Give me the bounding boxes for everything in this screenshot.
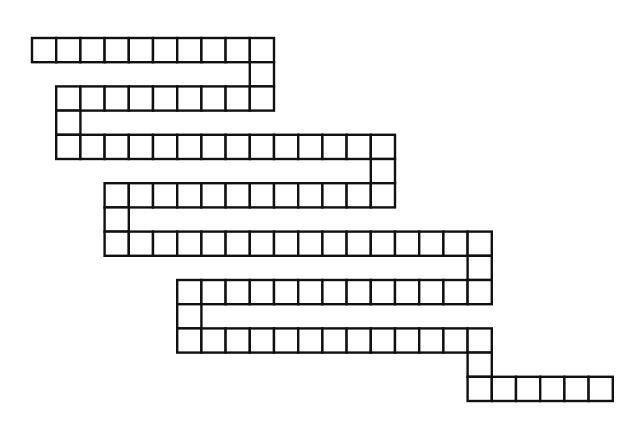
grid-cell[interactable] [153, 183, 177, 207]
grid-cell[interactable] [322, 232, 346, 256]
grid-cell[interactable] [56, 38, 80, 62]
grid-cell[interactable] [516, 377, 540, 401]
grid-cell[interactable] [250, 280, 274, 304]
grid-cell[interactable] [153, 86, 177, 110]
grid-cell[interactable] [226, 86, 250, 110]
grid-cell[interactable] [250, 232, 274, 256]
grid-cell[interactable] [371, 183, 395, 207]
grid-cell[interactable] [226, 280, 250, 304]
grid-cell[interactable] [371, 135, 395, 159]
grid-cell[interactable] [177, 38, 201, 62]
grid-cell[interactable] [298, 183, 322, 207]
grid-cell[interactable] [371, 328, 395, 352]
grid-cell[interactable] [371, 280, 395, 304]
grid-cell[interactable] [153, 232, 177, 256]
grid-cell[interactable] [347, 328, 371, 352]
grid-cell[interactable] [468, 232, 492, 256]
grid-cell[interactable] [274, 328, 298, 352]
grid-cell[interactable] [250, 38, 274, 62]
grid-cell[interactable] [419, 280, 443, 304]
grid-cell[interactable] [177, 280, 201, 304]
grid-cell[interactable] [443, 232, 467, 256]
grid-cell[interactable] [129, 38, 153, 62]
grid-cell[interactable] [32, 38, 56, 62]
grid-cell[interactable] [105, 207, 129, 231]
grid-cell[interactable] [274, 135, 298, 159]
grid-cell[interactable] [129, 135, 153, 159]
grid-cell[interactable] [153, 38, 177, 62]
grid-cell[interactable] [443, 328, 467, 352]
grid-cell[interactable] [80, 38, 104, 62]
grid-cell[interactable] [371, 159, 395, 183]
grid-cell[interactable] [322, 328, 346, 352]
grid-cell[interactable] [347, 280, 371, 304]
grid-cell[interactable] [201, 183, 225, 207]
grid-cell[interactable] [226, 232, 250, 256]
grid-cell[interactable] [347, 183, 371, 207]
grid-cell[interactable] [226, 328, 250, 352]
grid-cell[interactable] [201, 280, 225, 304]
grid-cell[interactable] [226, 135, 250, 159]
grid-cell[interactable] [201, 328, 225, 352]
grid-cell[interactable] [56, 135, 80, 159]
grid-cell[interactable] [347, 135, 371, 159]
grid-cell[interactable] [129, 86, 153, 110]
grid-cell[interactable] [177, 183, 201, 207]
grid-cell[interactable] [468, 353, 492, 377]
grid-cell[interactable] [250, 135, 274, 159]
grid-cell[interactable] [395, 280, 419, 304]
grid-cell[interactable] [468, 280, 492, 304]
grid-cell[interactable] [56, 86, 80, 110]
grid-cell[interactable] [250, 328, 274, 352]
grid-cell[interactable] [419, 232, 443, 256]
grid-cell[interactable] [395, 232, 419, 256]
grid-cell[interactable] [589, 377, 613, 401]
grid-cell[interactable] [105, 135, 129, 159]
grid-cell[interactable] [371, 232, 395, 256]
grid-cell[interactable] [201, 38, 225, 62]
grid-cell[interactable] [177, 232, 201, 256]
grid-cell[interactable] [492, 377, 516, 401]
grid-cell[interactable] [129, 183, 153, 207]
grid-cell[interactable] [419, 328, 443, 352]
grid-cell[interactable] [105, 232, 129, 256]
grid-cell[interactable] [56, 111, 80, 135]
grid-cell[interactable] [540, 377, 564, 401]
grid-cell[interactable] [250, 62, 274, 86]
grid-cell[interactable] [274, 232, 298, 256]
grid-cell[interactable] [177, 304, 201, 328]
grid-cell[interactable] [274, 280, 298, 304]
grid-cell[interactable] [298, 280, 322, 304]
grid-cell[interactable] [322, 183, 346, 207]
grid-cell[interactable] [226, 183, 250, 207]
grid-cell[interactable] [564, 377, 588, 401]
grid-cell[interactable] [274, 183, 298, 207]
grid-cell[interactable] [105, 38, 129, 62]
grid-cell[interactable] [105, 183, 129, 207]
grid-cell[interactable] [468, 328, 492, 352]
grid-cell[interactable] [443, 280, 467, 304]
grid-cell[interactable] [129, 232, 153, 256]
grid-cell[interactable] [250, 183, 274, 207]
grid-cell[interactable] [322, 280, 346, 304]
grid-cell[interactable] [80, 86, 104, 110]
grid-cell[interactable] [201, 232, 225, 256]
grid-cell[interactable] [298, 135, 322, 159]
grid-cell[interactable] [468, 256, 492, 280]
grid-cell[interactable] [105, 86, 129, 110]
grid-cell[interactable] [201, 135, 225, 159]
grid-cell[interactable] [177, 328, 201, 352]
grid-cell[interactable] [153, 135, 177, 159]
grid-cell[interactable] [347, 232, 371, 256]
grid-cell[interactable] [201, 86, 225, 110]
grid-cell[interactable] [322, 135, 346, 159]
grid-cell[interactable] [226, 38, 250, 62]
grid-cell[interactable] [177, 86, 201, 110]
grid-cell[interactable] [80, 135, 104, 159]
grid-cell[interactable] [298, 328, 322, 352]
grid-cell[interactable] [298, 232, 322, 256]
grid-cell[interactable] [177, 135, 201, 159]
grid-cell[interactable] [250, 86, 274, 110]
grid-cell[interactable] [468, 377, 492, 401]
grid-cell[interactable] [395, 328, 419, 352]
